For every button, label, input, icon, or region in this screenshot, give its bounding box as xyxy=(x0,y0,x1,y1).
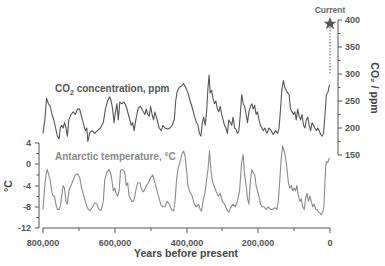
current-annotation: Current xyxy=(315,5,346,15)
left-tick-label: 0 xyxy=(26,159,31,169)
x-tick-label: 200,000 xyxy=(242,238,275,248)
co2-label-main: CO xyxy=(55,83,70,94)
left-tick-label: 4 xyxy=(26,138,31,148)
left-axis: 4 0 -4 -8 -12 °C xyxy=(2,138,39,233)
right-tick-label: 300 xyxy=(345,69,360,79)
left-tick-label: -8 xyxy=(23,202,31,212)
right-axis-title: CO₂ / ppm xyxy=(369,62,381,113)
left-axis-title: °C xyxy=(2,180,14,192)
right-tick-label: 250 xyxy=(345,96,360,106)
x-tick-label: 600,000 xyxy=(99,238,132,248)
left-tick-label: -12 xyxy=(18,223,31,233)
co2-label-rest: concentration, ppm xyxy=(74,83,170,94)
right-axis: 400 350 300 250 200 150 CO₂ / ppm xyxy=(338,15,381,160)
co2-series-label: CO2 concentration, ppm xyxy=(55,83,170,96)
x-tick-label: 0 xyxy=(327,238,332,248)
x-axis-title: Years before present xyxy=(134,247,238,259)
x-tick-label: 800,000 xyxy=(27,238,60,248)
temperature-series-label: Antarctic temperature, °C xyxy=(55,151,176,162)
right-tick-label: 200 xyxy=(345,123,360,133)
right-tick-label: 350 xyxy=(345,42,360,52)
right-tick-label: 400 xyxy=(345,15,360,25)
right-tick-label: 150 xyxy=(345,150,360,160)
chart: 4 0 -4 -8 -12 °C 400 350 300 250 200 150… xyxy=(0,0,385,266)
x-axis: 800,000 600,000 400,000 200,000 0 Years … xyxy=(27,228,333,259)
left-tick-label: -4 xyxy=(23,181,31,191)
